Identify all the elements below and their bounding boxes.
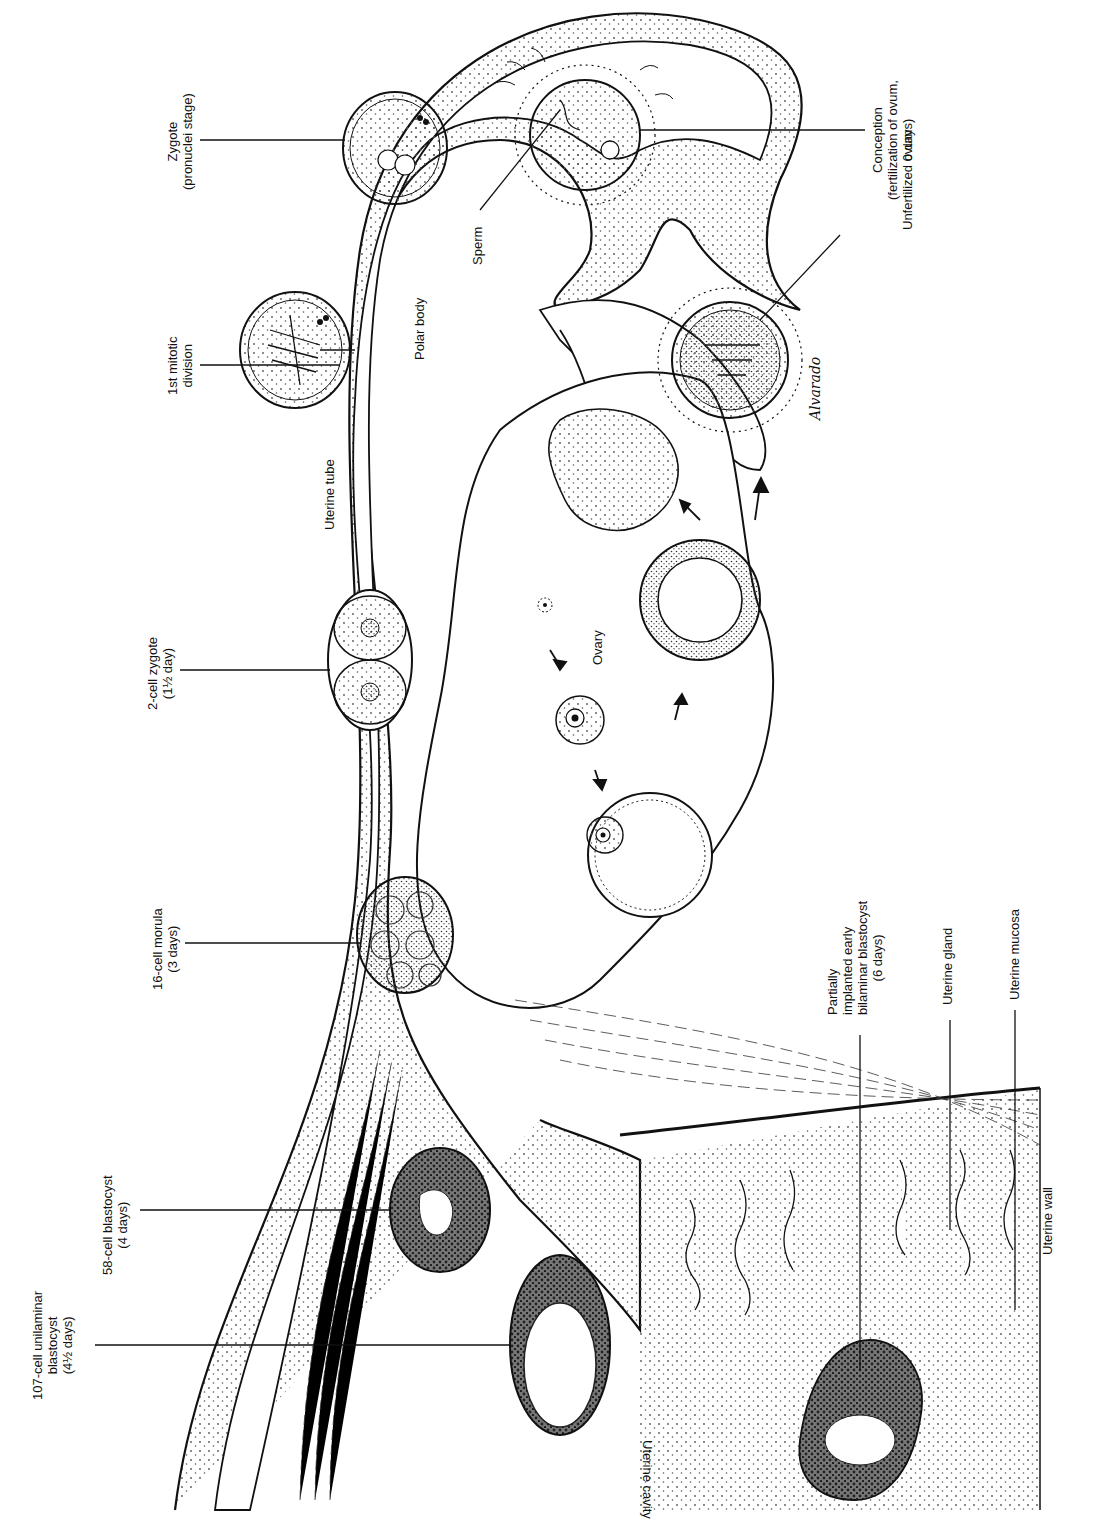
label-partially-implanted-blastocyst: Partially implanted early bilaminar blas… (825, 901, 885, 1015)
diagram-artwork (0, 0, 1099, 1522)
label-fifty-eight-cell-blastocyst: 58-cell blastocyst (4 days) (100, 1175, 130, 1275)
label-one-oh-seven-cell-blastocyst: 107-cell unilaminar blastocyst (4½ days) (30, 1291, 75, 1400)
label-two-cell-zygote: 2-cell zygote (1½ day) (145, 637, 175, 710)
label-uterine-cavity: Uterine cavity (640, 1440, 655, 1519)
fifty-eight-cell-blastocyst (390, 1148, 490, 1272)
label-sixteen-cell-morula: 16-cell morula (3 days) (150, 908, 180, 990)
artist-signature: Alvarado (808, 357, 823, 420)
ovary (417, 372, 773, 1008)
label-zygote: Zygote (pronuclei stage) (165, 93, 195, 190)
label-uterine-mucosa: Uterine mucosa (1007, 909, 1022, 1000)
label-first-mitotic-division: 1st mitotic division (165, 336, 195, 395)
label-uterine-wall: Uterine wall (1040, 1187, 1055, 1255)
label-uterine-gland: Uterine gland (940, 928, 955, 1005)
one-oh-seven-cell-blastocyst (510, 1255, 610, 1435)
label-unfertilized-ovum: Unfertilized ovum (900, 130, 915, 230)
label-polar-body: Polar body (412, 298, 427, 360)
zygote (343, 92, 447, 204)
two-cell-zygote (328, 590, 412, 730)
label-sperm: Sperm (470, 227, 485, 265)
label-ovary: Ovary (590, 630, 605, 665)
label-uterine-tube: Uterine tube (322, 459, 337, 530)
sixteen-cell-morula (357, 877, 453, 993)
